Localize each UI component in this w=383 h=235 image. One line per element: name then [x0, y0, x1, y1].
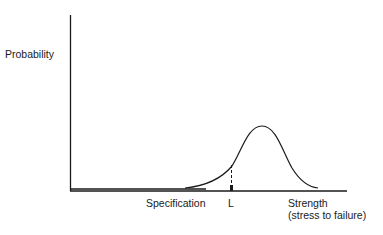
- x-axis-label: Strength: [288, 197, 328, 209]
- specification-label: Specification: [146, 197, 206, 209]
- y-axis-label: Probability: [5, 48, 54, 60]
- limit-marker: [230, 185, 233, 191]
- x-axis-sublabel: (stress to failure): [288, 209, 366, 221]
- limit-label: L: [228, 197, 234, 209]
- probability-curve: [185, 126, 318, 188]
